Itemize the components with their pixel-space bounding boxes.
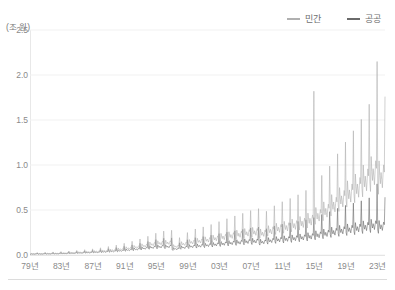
plot-area [30,30,385,255]
x-tick-label: 07년 [243,259,260,271]
y-tick-label: 1.0 [2,160,28,170]
footer-divider [8,279,387,280]
series-line-mingan [30,62,385,255]
legend-label-gonggong: 공공 [365,15,381,24]
legend-swatch-gonggong [347,18,360,20]
x-tick-label: 19년 [337,259,354,271]
x-tick-label: 91년 [116,259,133,271]
x-tick-label: 15년 [306,259,323,271]
series-paths [30,30,385,255]
legend-item-mingan[interactable]: 민간 [287,15,321,24]
x-tick-label: 79년 [21,259,38,271]
y-axis-ticks: 0.00.51.01.52.02.5 [0,30,28,255]
y-tick-label: 1.5 [2,115,28,125]
legend-swatch-mingan [287,18,300,20]
y-tick-label: 2.5 [2,25,28,35]
x-tick-label: 95년 [148,259,165,271]
chart-container: 민간 공공 (조 원) 0.00.51.01.52.02.5 79년83년87년… [0,0,395,290]
series-line-gonggong [30,184,385,254]
y-tick-label: 0.5 [2,205,28,215]
x-tick-label: 99년 [179,259,196,271]
legend-label-mingan: 민간 [305,15,321,24]
x-tick-label: 11년 [274,259,291,271]
y-tick-label: 2.0 [2,70,28,80]
x-tick-label: 03년 [211,259,228,271]
legend-item-gonggong[interactable]: 공공 [347,15,381,24]
chart-legend: 민간 공공 [0,11,395,27]
x-tick-label: 83년 [53,259,70,271]
x-tick-label: 87년 [84,259,101,271]
x-tick-label: 23년 [369,259,386,271]
